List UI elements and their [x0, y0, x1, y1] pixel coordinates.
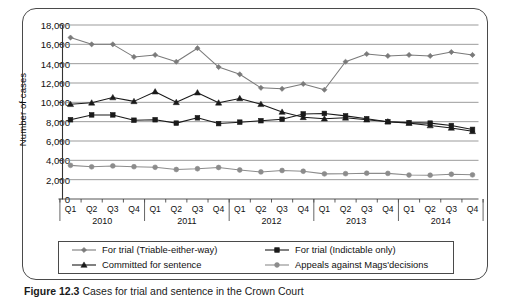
x-tick-quarter: Q3	[276, 204, 287, 214]
chart-legend: For trial (Triable-either-way)For trial …	[58, 241, 454, 274]
y-tick-label: 4,000	[46, 155, 70, 166]
x-tick-quarter: Q2	[171, 204, 182, 214]
figure-caption: Figure 12.3 Cases for trial and sentence…	[24, 285, 304, 297]
x-tick-year: 2014	[431, 216, 451, 226]
y-tick-label: 6,000	[46, 136, 70, 147]
y-tick-label: 0	[65, 194, 70, 205]
legend-item[interactable]: Appeals against Mags'decisions	[264, 259, 428, 270]
legend-item[interactable]: Committed for sentence	[71, 259, 202, 270]
legend-marker-square-icon	[264, 245, 290, 255]
x-tick-quarter: Q4	[467, 204, 478, 214]
legend-item-label: Committed for sentence	[102, 259, 202, 270]
legend-marker-triangle-icon	[71, 260, 97, 270]
y-tick-label: 18,000	[41, 20, 70, 31]
x-tick-quarter: Q2	[424, 204, 435, 214]
y-tick-label: 14,000	[41, 58, 70, 69]
x-tick-year: 2011	[177, 216, 196, 226]
legend-marker-circle-icon	[264, 260, 290, 270]
x-tick-quarter: Q1	[319, 204, 330, 214]
x-tick-quarter: Q1	[65, 204, 76, 214]
y-tick-label: 12,000	[41, 78, 70, 89]
x-tick-year: 2013	[346, 216, 366, 226]
x-tick-year: 2012	[261, 216, 281, 226]
legend-item[interactable]: For trial (Indictable only)	[264, 244, 396, 255]
x-tick-year: 2010	[92, 216, 112, 226]
x-tick-quarter: Q2	[86, 204, 97, 214]
legend-item-label: Appeals against Mags'decisions	[295, 259, 428, 270]
x-tick-quarter: Q4	[298, 204, 309, 214]
x-tick-quarter: Q3	[361, 204, 372, 214]
y-tick-label: 2,000	[46, 174, 70, 185]
x-tick-quarter: Q2	[340, 204, 351, 214]
chart-frame	[22, 8, 488, 280]
y-tick-label: 16,000	[41, 39, 70, 50]
x-tick-quarter: Q1	[234, 204, 245, 214]
y-tick-label: 10,000	[41, 97, 70, 108]
x-tick-quarter: Q3	[446, 204, 457, 214]
figure-caption-number: Figure 12.3	[24, 285, 79, 297]
legend-item[interactable]: For trial (Triable-either-way)	[71, 244, 217, 255]
figure-root: Number of cases 02,0004,0006,0008,00010,…	[0, 0, 505, 301]
x-tick-quarter: Q1	[149, 204, 160, 214]
x-tick-quarter: Q2	[255, 204, 266, 214]
x-tick-quarter: Q4	[128, 204, 139, 214]
x-tick-quarter: Q3	[107, 204, 118, 214]
legend-item-label: For trial (Indictable only)	[295, 244, 396, 255]
x-tick-quarter: Q4	[382, 204, 393, 214]
x-tick-quarter: Q4	[213, 204, 224, 214]
figure-caption-text: Cases for trial and sentence in the Crow…	[82, 285, 303, 297]
legend-item-label: For trial (Triable-either-way)	[102, 244, 217, 255]
y-tick-label: 8,000	[46, 116, 70, 127]
legend-marker-diamond-icon	[71, 245, 97, 255]
y-axis-label: Number of cases	[17, 40, 28, 180]
x-tick-quarter: Q3	[192, 204, 203, 214]
x-tick-quarter: Q1	[403, 204, 414, 214]
